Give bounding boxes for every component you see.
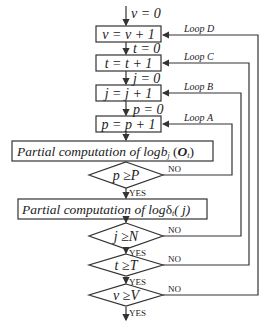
label-yes-j: YES bbox=[129, 248, 146, 258]
text-p-check: p ≥P bbox=[112, 168, 140, 183]
label-loop-b: Loop B bbox=[183, 81, 213, 92]
text-t-check: t ≥T bbox=[115, 258, 139, 273]
label-no-t: NO bbox=[168, 254, 181, 264]
label-p-init: p = 0 bbox=[132, 102, 163, 117]
label-t-init: t = 0 bbox=[133, 41, 160, 56]
label-v-init: v = 0 bbox=[131, 6, 161, 21]
text-p-increment: p = p + 1 bbox=[101, 117, 156, 132]
label-no-v: NO bbox=[168, 284, 181, 294]
text-partial-delta: Partial computation of logδt( j) bbox=[21, 202, 191, 218]
label-loop-d: Loop D bbox=[183, 23, 215, 34]
label-no-p: NO bbox=[168, 164, 181, 174]
label-loop-a: Loop A bbox=[183, 112, 214, 123]
label-j-init: j = 0 bbox=[131, 71, 160, 86]
label-loop-c: Loop C bbox=[183, 51, 214, 62]
flowchart: v = 0 t = 0 j = 0 p = 0 v = v + 1 t = t … bbox=[0, 0, 270, 329]
label-yes-p: YES bbox=[129, 188, 146, 198]
text-t-increment: t = t + 1 bbox=[105, 56, 153, 71]
text-v-check: v ≥V bbox=[113, 288, 140, 303]
label-yes-t: YES bbox=[129, 277, 146, 287]
text-j-check: j ≥N bbox=[112, 229, 139, 244]
label-yes-v: YES bbox=[129, 308, 146, 318]
text-partial-b: Partial computation of logbj (Ot) bbox=[16, 144, 194, 160]
text-v-increment: v = v + 1 bbox=[102, 27, 154, 42]
text-j-increment: j = j + 1 bbox=[103, 86, 153, 101]
label-no-j: NO bbox=[168, 225, 181, 235]
